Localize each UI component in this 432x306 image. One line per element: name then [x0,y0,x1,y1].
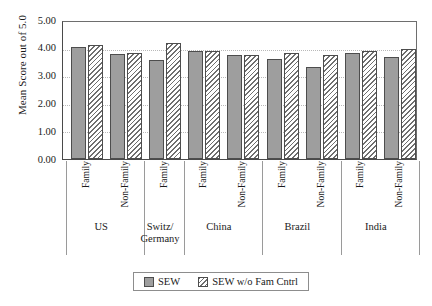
subcategory-label: Non-Family [392,161,406,219]
bar-sew [306,67,321,159]
hatched-swatch-icon [198,277,208,287]
chart-legend: SEW SEW w/o Fam Cntrl [133,272,309,291]
bar-sew [267,59,282,159]
bar-sew-wo-fam-cntrl [205,51,220,159]
subcategory-label: Non-Family [235,161,249,219]
group-label-india: India [337,221,415,233]
group-label-line: Switz/ [140,221,179,233]
bar-sew [227,55,242,159]
group-separator [419,161,420,255]
bar-sew [71,47,86,159]
subcategory-label: Family [79,161,93,219]
group-label-line: India [337,221,415,233]
group-label-line: Brazil [258,221,336,233]
x-axis-subcategory-labels: FamilyNon-FamilyFamilyFamilyNon-FamilyFa… [62,161,417,219]
subcategory-label-text: Non-Family [316,161,326,207]
subcategory-label: Non-Family [314,161,328,219]
plot-area [62,21,417,160]
subcategory-label-text: Family [159,161,169,188]
bar-sew-wo-fam-cntrl [323,55,338,159]
bar-sew-wo-fam-cntrl [88,45,103,159]
group-label-brazil: Brazil [258,221,336,233]
subcategory-group: Family [144,161,183,219]
subcategory-label: Family [353,161,367,219]
subcategory-label: Family [157,161,171,219]
subcategory-label: Non-Family [118,161,132,219]
bar-sew [384,57,399,159]
bar-sew [188,51,203,159]
bar-pair [267,53,299,159]
subcategory-group: FamilyNon-Family [66,161,144,219]
bar-chart: Mean Score out of 5.0 5.00 4.00 3.00 2.0… [0,0,432,306]
group-label-switz-germany: Switz/Germany [140,221,179,244]
bar-pair [188,51,220,159]
bar-sew-wo-fam-cntrl [401,49,416,159]
bar-pair [227,55,259,159]
y-tick-0: 0.00 [22,154,56,165]
subcategory-label-text: Non-Family [120,161,130,207]
bar-sew [110,54,125,159]
bar-pair [110,53,142,159]
subcategory-group: FamilyNon-Family [341,161,419,219]
group-label-line: China [180,221,258,233]
subcategory-label-text: Family [355,161,365,188]
subcategory-label-text: Family [81,161,91,188]
legend-item-sew: SEW [144,276,180,287]
bar-sew [345,53,360,159]
group-label-line: US [62,221,140,233]
bar-sew-wo-fam-cntrl [166,43,181,159]
bar-pair [306,55,338,159]
bar-sew [149,60,164,159]
subcategory-group: FamilyNon-Family [262,161,340,219]
subcategory-label-text: Family [198,161,208,188]
solid-swatch-icon [144,277,154,287]
bar-pair [384,49,416,159]
y-axis-title: Mean Score out of 5.0 [16,0,32,138]
bar-group-brazil [263,22,341,159]
bars-container [63,22,416,159]
bar-group-india [342,22,420,159]
group-label-us: US [62,221,140,233]
legend-label-sew-wo-fam-cntrl: SEW w/o Fam Cntrl [212,276,298,287]
legend-item-sew-wo-fam-cntrl: SEW w/o Fam Cntrl [198,276,298,287]
bar-pair [71,45,103,159]
bar-group-china [185,22,263,159]
bar-group-us [67,22,145,159]
bar-pair [345,51,377,159]
subcategory-label: Family [275,161,289,219]
subcategory-label-text: Non-Family [237,161,247,207]
legend-label-sew: SEW [158,276,180,287]
group-label-line: Germany [140,233,179,245]
subcategory-label-text: Family [277,161,287,188]
group-label-china: China [180,221,258,233]
bar-sew-wo-fam-cntrl [362,51,377,159]
bar-group-switz-germany [145,22,184,159]
x-axis-group-labels: USSwitz/GermanyChinaBrazilIndia [62,221,417,255]
subcategory-label: Family [196,161,210,219]
subcategory-label-text: Non-Family [394,161,404,207]
bar-sew-wo-fam-cntrl [284,53,299,159]
bar-pair [149,43,181,159]
bar-sew-wo-fam-cntrl [127,53,142,159]
subcategory-group: FamilyNon-Family [184,161,262,219]
bar-sew-wo-fam-cntrl [244,55,259,159]
